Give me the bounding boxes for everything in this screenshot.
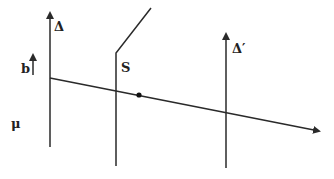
label-delta: Δ: [54, 19, 64, 34]
surface-s: [116, 8, 151, 166]
optics-diagram: Δ b μ S Δ′: [0, 0, 334, 179]
label-delta-prime: Δ′: [232, 41, 246, 56]
point-dot: [136, 92, 141, 97]
label-mu: μ: [11, 116, 21, 131]
label-b: b: [21, 61, 30, 76]
ray-line: [50, 78, 319, 131]
label-s: S: [121, 60, 130, 75]
